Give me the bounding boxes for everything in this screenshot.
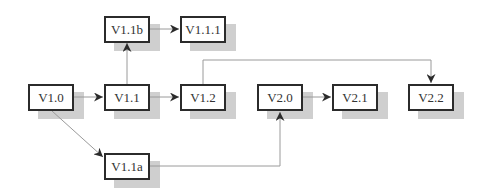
node-v1-1a: V1.1a — [104, 153, 150, 180]
edge-v1.2-v2.2 — [203, 60, 431, 84]
node-v1-1: V1.1 — [104, 84, 150, 111]
version-diagram: V1.0 V1.1 V1.2 V1.1b V1.1.1 V1.1a V2.0 V… — [0, 0, 483, 195]
edge-v1.0-v1.1a — [52, 111, 103, 157]
edge-v1.1a-v2.0 — [150, 112, 280, 166]
node-v1-2: V1.2 — [180, 84, 226, 111]
node-v2-2: V2.2 — [408, 84, 454, 111]
node-v1-1b: V1.1b — [104, 16, 150, 43]
node-v2-0: V2.0 — [257, 84, 303, 111]
node-v1-1-1: V1.1.1 — [180, 16, 226, 43]
node-v2-1: V2.1 — [332, 84, 378, 111]
node-v1-0: V1.0 — [28, 84, 74, 111]
